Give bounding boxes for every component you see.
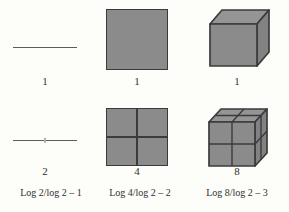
- fractal-dimension-figure: 1 1 1 2 4 8 Log 2/log 2 – 1 Log 4/log 2: [0, 0, 289, 212]
- unit-square-count-label: 1: [117, 75, 157, 88]
- unit-cube: [200, 4, 275, 74]
- divided-line-count-label: 2: [25, 165, 65, 178]
- cube-dimension-formula: Log 8/log 2 – 3: [182, 186, 289, 199]
- divided-cube-count-label: 8: [217, 165, 257, 178]
- unit-square: [106, 9, 168, 70]
- unit-line: [13, 47, 77, 49]
- divided-line-midpoint-tick: [44, 138, 47, 143]
- divided-square-horizontal-divider: [107, 136, 167, 138]
- unit-cube-front-face: [210, 24, 257, 66]
- divided-square-count-label: 4: [117, 165, 157, 178]
- square-dimension-formula: Log 4/log 2 – 2: [85, 186, 195, 199]
- divided-cube: [200, 104, 275, 174]
- unit-cube-count-label: 1: [217, 75, 257, 88]
- unit-line-count-label: 1: [25, 75, 65, 88]
- divided-square: [106, 108, 168, 166]
